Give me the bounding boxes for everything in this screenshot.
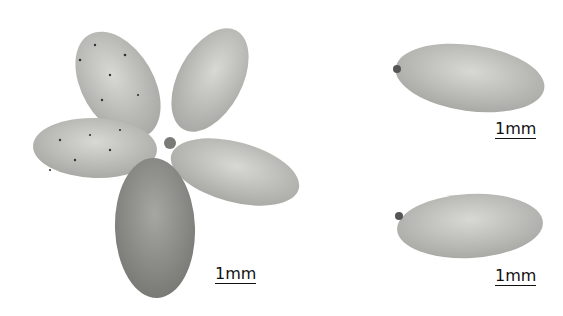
single-petal-top (391, 35, 549, 121)
scale-bar-main: 1mm (215, 266, 256, 284)
scale-bar-top-right: 1mm (495, 121, 536, 139)
flower-corolla (32, 16, 307, 300)
petals-illustration (0, 0, 563, 316)
specimen-photo: 1mm 1mm 1mm (0, 0, 563, 316)
single-petal-bottom (395, 190, 544, 262)
scale-bar-bottom-right: 1mm (495, 268, 536, 286)
